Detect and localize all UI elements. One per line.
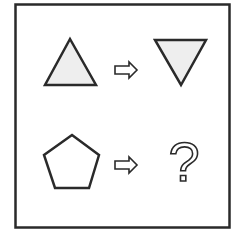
puzzle-figure: ? <box>0 0 237 233</box>
question-mark-icon: ? <box>168 130 199 193</box>
frame-border <box>16 5 230 228</box>
